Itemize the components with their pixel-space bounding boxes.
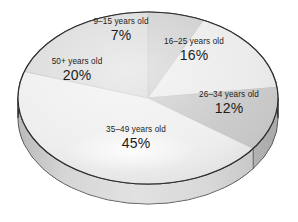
pie-highlight bbox=[66, 128, 198, 172]
pie-body bbox=[18, 12, 278, 204]
pie-chart-graphic bbox=[0, 0, 298, 222]
pie-chart: 9–15 years old 7% 16–25 years old 16% 26… bbox=[0, 0, 298, 222]
